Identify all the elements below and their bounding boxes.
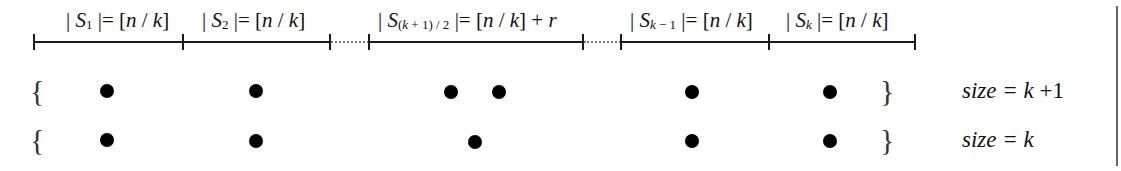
dot — [492, 85, 506, 99]
right-border-line — [1116, 6, 1118, 166]
segment-line-s2 — [183, 41, 330, 43]
segment-label-s-middle: | S(k + 1) / 2 |= [n / k] + r — [378, 8, 557, 37]
tick-mark — [914, 34, 916, 50]
segment-line-s1 — [34, 41, 183, 43]
tick-mark — [329, 34, 331, 50]
dot — [100, 133, 114, 147]
open-brace-row1: { — [30, 76, 44, 106]
segment-label-s1: | S1 |= [n / k] — [66, 8, 169, 37]
tick-mark — [368, 34, 370, 50]
segment-label-s-k: | Sk |= [n / k] — [786, 8, 888, 37]
segment-line-s-k — [769, 41, 915, 43]
gap-dotted-line-1 — [331, 41, 369, 43]
size-label-row1: size = k +1 — [962, 78, 1064, 104]
tick-mark — [620, 34, 622, 50]
dot — [444, 85, 458, 99]
size-label-row2: size = k — [962, 127, 1034, 153]
tick-mark — [182, 34, 184, 50]
open-brace-row2: { — [30, 125, 44, 155]
gap-dotted-line-2 — [584, 41, 621, 43]
tick-mark — [33, 34, 35, 50]
segment-label-s-k-minus-1: | Sk − 1 |= [n / k] — [630, 8, 753, 37]
dot — [249, 84, 263, 98]
dot — [249, 134, 263, 148]
segment-label-s2: | S2 |= [n / k] — [202, 8, 305, 37]
segment-line-s-middle — [369, 41, 583, 43]
close-brace-row2: } — [880, 125, 894, 155]
tick-mark — [582, 34, 584, 50]
dot — [685, 85, 699, 99]
close-brace-row1: } — [880, 76, 894, 106]
dot — [685, 134, 699, 148]
dot — [468, 135, 482, 149]
dot — [823, 85, 837, 99]
dot — [823, 134, 837, 148]
segment-line-s-k-minus-1 — [621, 41, 769, 43]
tick-mark — [768, 34, 770, 50]
dot — [100, 84, 114, 98]
